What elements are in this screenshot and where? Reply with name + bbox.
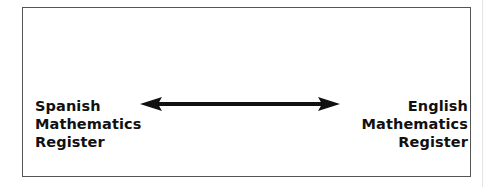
label-line: Register (362, 133, 468, 151)
label-line: Mathematics (35, 115, 141, 133)
page-edge-line (482, 0, 483, 187)
label-line: Spanish (35, 97, 141, 115)
diagram-frame (22, 7, 471, 177)
label-line: Register (35, 133, 141, 151)
spanish-register-label: Spanish Mathematics Register (35, 97, 141, 151)
double-headed-arrow-icon (140, 96, 340, 112)
label-line: English (362, 97, 468, 115)
english-register-label: English Mathematics Register (362, 97, 468, 151)
label-line: Mathematics (362, 115, 468, 133)
